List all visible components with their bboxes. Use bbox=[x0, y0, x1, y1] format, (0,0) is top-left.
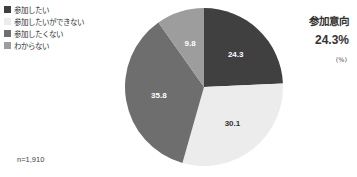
legend-item-want-but-cannot: 参加したいができない bbox=[4, 16, 84, 27]
legend-swatch bbox=[4, 30, 11, 37]
legend-label: 参加したい bbox=[14, 4, 49, 15]
legend-swatch bbox=[4, 42, 11, 49]
legend-item-unknown: わからない bbox=[4, 40, 84, 51]
pie-slice bbox=[204, 8, 283, 87]
slice-value-label: 35.8 bbox=[151, 91, 167, 100]
legend-item-do-not-want: 参加したくない bbox=[4, 28, 84, 39]
legend-label: 参加したくない bbox=[14, 28, 63, 39]
sample-size: n=1,910 bbox=[17, 155, 44, 164]
slice-value-label: 30.1 bbox=[225, 119, 241, 128]
chart-legend: 参加したい 参加したいができない 参加したくない わからない bbox=[4, 4, 84, 52]
legend-item-want: 参加したい bbox=[4, 4, 84, 15]
slice-value-label: 24.3 bbox=[228, 50, 244, 59]
unit-label: (%) bbox=[336, 56, 347, 64]
legend-label: わからない bbox=[14, 40, 49, 51]
pie-slices bbox=[125, 8, 283, 166]
side-title: 参加意向 bbox=[309, 13, 349, 28]
legend-label: 参加したいができない bbox=[14, 16, 84, 27]
legend-swatch bbox=[4, 6, 11, 13]
slice-value-label: 9.8 bbox=[185, 39, 197, 48]
highlight-value: 24.3% bbox=[315, 33, 349, 47]
pie-chart: 24.330.135.89.8 bbox=[123, 6, 285, 168]
legend-swatch bbox=[4, 18, 11, 25]
